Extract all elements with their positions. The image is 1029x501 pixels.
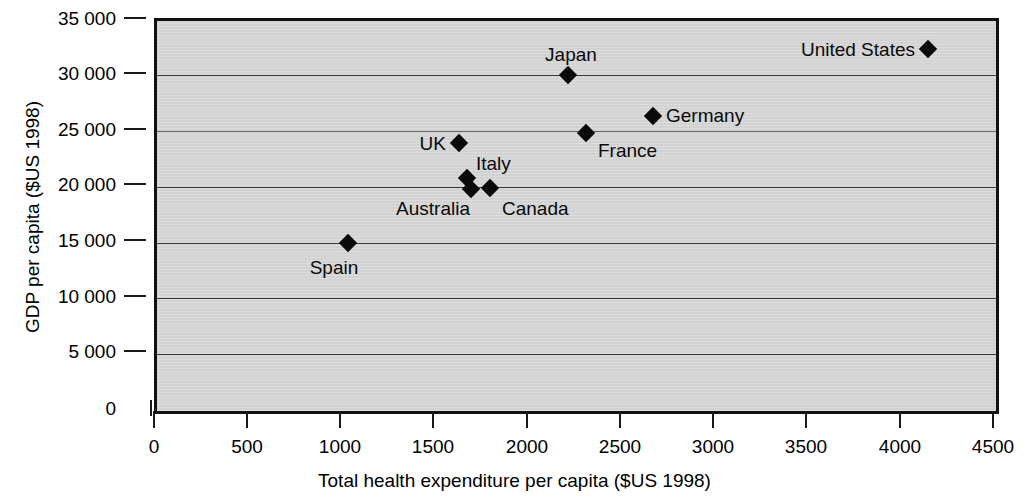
- x-tick-mark-4500: [992, 411, 994, 428]
- x-axis-title: Total health expenditure per capita ($US…: [0, 470, 1029, 492]
- y-tick-label-5000: 5 000: [68, 342, 116, 361]
- x-tick-label-0: 0: [149, 437, 160, 456]
- x-tick-label-1500: 1500: [412, 437, 454, 456]
- x-tick-label-1000: 1000: [319, 437, 361, 456]
- y-tick-label-15000: 15 000: [58, 231, 116, 250]
- y-tick-mark-20000: [124, 183, 146, 185]
- data-point-united-states[interactable]: [919, 40, 937, 58]
- data-point-uk[interactable]: [450, 134, 468, 152]
- x-tick-label-500: 500: [231, 437, 263, 456]
- gridline-10000: [157, 298, 996, 299]
- y-tick-label-30000: 30 000: [58, 64, 116, 83]
- data-point-japan[interactable]: [559, 66, 577, 84]
- point-label-italy: Italy: [476, 154, 511, 173]
- y-tick-label-0: 0: [105, 399, 116, 418]
- data-point-spain[interactable]: [339, 234, 357, 252]
- y-tick-label-35000: 35 000: [58, 9, 116, 28]
- x-tick-label-4000: 4000: [879, 437, 921, 456]
- x-tick-label-2500: 2500: [599, 437, 641, 456]
- x-tick-label-3500: 3500: [785, 437, 827, 456]
- gridline-5000: [157, 354, 996, 355]
- y-tick-label-20000: 20 000: [58, 175, 116, 194]
- x-tick-label-2000: 2000: [506, 437, 548, 456]
- data-point-canada[interactable]: [481, 179, 499, 197]
- point-label-canada: Canada: [502, 199, 569, 218]
- data-point-germany[interactable]: [644, 107, 662, 125]
- x-tick-mark-2500: [619, 411, 621, 428]
- y-axis-title: GDP per capita ($US 1998): [22, 52, 44, 382]
- point-label-france: France: [598, 141, 657, 160]
- gridline-20000: [157, 187, 996, 188]
- point-label-australia: Australia: [396, 199, 470, 218]
- x-tick-mark-500: [246, 411, 248, 428]
- y-tick-mark-30000: [124, 72, 146, 74]
- x-tick-mark-3500: [805, 411, 807, 428]
- y-tick-mark-25000: [124, 128, 146, 130]
- scatter-chart: 35 000 30 000 25 000 20 000 15 000 10 00…: [0, 0, 1029, 501]
- x-tick-mark-3000: [712, 411, 714, 428]
- x-tick-mark-0: [153, 411, 155, 428]
- y-axis-tick-labels: 35 000 30 000 25 000 20 000 15 000 10 00…: [0, 0, 116, 501]
- x-tick-mark-2000: [526, 411, 528, 428]
- y-tick-mark-5000: [124, 350, 146, 352]
- y-tick-label-10000: 10 000: [58, 287, 116, 306]
- x-tick-mark-1000: [339, 411, 341, 428]
- x-tick-mark-4000: [899, 411, 901, 428]
- y-tick-mark-10000: [124, 295, 146, 297]
- point-label-united-states: United States: [801, 40, 915, 59]
- plot-area: United States Japan Germany France UK It…: [154, 18, 999, 414]
- x-tick-mark-1500: [432, 411, 434, 428]
- data-point-france[interactable]: [577, 124, 595, 142]
- point-label-japan: Japan: [545, 45, 597, 64]
- gridline-15000: [157, 243, 996, 244]
- point-label-uk: UK: [420, 134, 446, 153]
- x-tick-label-3000: 3000: [692, 437, 734, 456]
- y-axis-zero-mark: [150, 400, 152, 416]
- point-label-germany: Germany: [666, 106, 744, 125]
- y-tick-label-25000: 25 000: [58, 120, 116, 139]
- y-tick-mark-15000: [124, 239, 146, 241]
- point-label-spain: Spain: [310, 258, 359, 277]
- x-tick-label-4500: 4500: [972, 437, 1014, 456]
- y-tick-mark-35000: [124, 17, 146, 19]
